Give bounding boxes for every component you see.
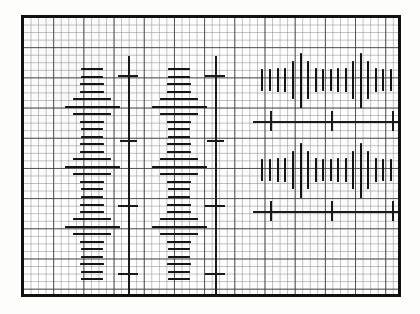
- bar-cluster-B1-11: [167, 151, 191, 153]
- bar-cluster-A3-6: [81, 248, 103, 250]
- bar-cluster-B3-0: [167, 204, 191, 206]
- bar-cluster-B1-1: [168, 76, 190, 78]
- bar-cluster-A3-8: [80, 263, 104, 265]
- axis-right-1-tick-1: [331, 111, 333, 131]
- bar-cluster-B1-2: [167, 83, 191, 85]
- bar-cluster-A1-11: [80, 151, 104, 153]
- bar-cluster-D2-5: [390, 159, 392, 181]
- axis-left-2-tick-1: [207, 140, 224, 142]
- bar-cluster-B3-8: [167, 263, 191, 265]
- bar-cluster-D2-0: [352, 151, 354, 189]
- bar-cluster-D1-10: [337, 158, 339, 182]
- bar-cluster-D2-1: [360, 143, 362, 198]
- bar-cluster-C1-6: [307, 61, 309, 99]
- bar-cluster-A1-7: [80, 121, 104, 123]
- bar-cluster-D1-7: [315, 158, 317, 182]
- bar-cluster-C1-10: [337, 68, 339, 92]
- bar-cluster-B3-5: [167, 241, 191, 243]
- bar-cluster-B2-1: [152, 166, 207, 168]
- bar-cluster-B1-10: [167, 143, 191, 145]
- bar-cluster-C1-5: [300, 53, 302, 108]
- bar-cluster-D1-11: [345, 158, 347, 182]
- bar-cluster-C1-0: [261, 69, 263, 91]
- bar-cluster-B2-3: [167, 181, 191, 183]
- axis-left-2-tick-3: [205, 273, 225, 275]
- bar-cluster-B1-9: [168, 136, 190, 138]
- bar-cluster-A3-2: [73, 218, 111, 220]
- bar-cluster-A1-3: [80, 91, 104, 93]
- axis-left-1-tick-1: [120, 140, 137, 142]
- chart-plot-area: [21, 15, 401, 297]
- bar-cluster-A1-10: [80, 143, 104, 145]
- bar-cluster-A3-10: [81, 278, 103, 280]
- bar-cluster-B3-3: [152, 226, 207, 228]
- bar-cluster-B2-2: [160, 173, 198, 175]
- bar-cluster-A3-7: [81, 256, 103, 258]
- bar-cluster-D1-4: [292, 151, 294, 189]
- bar-cluster-D1-8: [322, 159, 324, 181]
- bar-cluster-B2-4: [168, 188, 190, 190]
- bar-cluster-A1-4: [73, 98, 111, 100]
- bar-cluster-A2-4: [81, 188, 103, 190]
- bar-cluster-A2-1: [65, 166, 120, 168]
- bar-cluster-A1-8: [81, 128, 103, 130]
- bar-cluster-B3-4: [160, 233, 198, 235]
- axis-left-1-tick-3: [118, 273, 138, 275]
- axis-right-1: [253, 121, 401, 123]
- bar-cluster-D2-3: [375, 158, 377, 182]
- axis-right-1-tick-0: [270, 111, 272, 131]
- bar-cluster-A1-1: [81, 76, 103, 78]
- figure-title: Graph-paper bar chart with diamond-shape…: [0, 21, 1, 22]
- bar-cluster-D1-2: [277, 158, 279, 182]
- bar-cluster-C1-8: [322, 69, 324, 91]
- bar-cluster-C2-2: [367, 61, 369, 99]
- bar-cluster-B1-8: [168, 128, 190, 130]
- bar-cluster-B1-3: [167, 91, 191, 93]
- axis-left-2-tick-0: [205, 75, 225, 77]
- bar-cluster-B3-1: [167, 211, 191, 213]
- bar-cluster-B1-6: [160, 113, 198, 115]
- bar-cluster-D1-0: [261, 159, 263, 181]
- bar-cluster-C1-11: [345, 68, 347, 92]
- bar-cluster-A2-0: [73, 158, 111, 160]
- axis-right-2-tick-1: [331, 201, 333, 221]
- axis-left-1-tick-2: [118, 205, 138, 207]
- bar-cluster-C2-4: [382, 69, 384, 91]
- axis-right-2: [253, 211, 401, 213]
- axis-left-2: [215, 56, 217, 297]
- bar-cluster-B3-10: [168, 278, 190, 280]
- bar-cluster-A1-0: [81, 68, 103, 70]
- bar-cluster-C1-4: [292, 61, 294, 99]
- bar-cluster-A2-3: [80, 181, 104, 183]
- bar-cluster-D1-6: [307, 151, 309, 189]
- bar-cluster-B1-4: [160, 98, 198, 100]
- bar-cluster-B1-5: [152, 106, 207, 108]
- axis-right-2-tick-0: [270, 201, 272, 221]
- bar-cluster-D2-4: [382, 159, 384, 181]
- bar-cluster-A1-2: [80, 83, 104, 85]
- bar-cluster-A3-3: [65, 226, 120, 228]
- axis-right-1-tick-2: [392, 111, 394, 131]
- bar-cluster-B3-9: [168, 271, 190, 273]
- bar-cluster-C1-3: [284, 68, 286, 92]
- bar-cluster-A1-6: [73, 113, 111, 115]
- bar-cluster-C1-2: [277, 68, 279, 92]
- figure-canvas: Graph-paper bar chart with diamond-shape…: [0, 0, 420, 314]
- bar-cluster-B3-2: [160, 218, 198, 220]
- bar-cluster-D1-1: [269, 159, 271, 181]
- bar-cluster-C2-5: [390, 69, 392, 91]
- axis-left-2-tick-2: [205, 205, 225, 207]
- axis-right-2-tick-2: [392, 201, 394, 221]
- axis-left-1-tick-0: [118, 75, 138, 77]
- bar-cluster-B2-0: [160, 158, 198, 160]
- bar-cluster-B1-0: [168, 68, 190, 70]
- bar-cluster-C1-9: [330, 69, 332, 91]
- bar-cluster-C1-7: [315, 68, 317, 92]
- bar-cluster-B3-7: [168, 256, 190, 258]
- bar-cluster-C2-0: [352, 61, 354, 99]
- bar-cluster-D2-2: [367, 151, 369, 189]
- bar-cluster-B1-7: [167, 121, 191, 123]
- bar-cluster-A2-2: [73, 173, 111, 175]
- bar-cluster-B3-6: [168, 248, 190, 250]
- bar-cluster-A1-5: [65, 106, 120, 108]
